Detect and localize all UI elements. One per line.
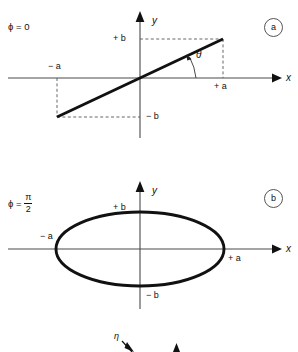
panel-a-graphics (8, 11, 282, 138)
panel-a-x-axis-arrowhead (272, 74, 282, 83)
panel-b-y-axis-arrowhead (136, 181, 145, 192)
panel-a-angle-label: θ (196, 50, 201, 60)
panel-a-y-axis-label: y (152, 16, 157, 26)
panel-a-y-axis-arrowhead (136, 11, 145, 22)
panel-c-vertical-arrowhead (173, 343, 180, 352)
panel-b-tag-text: b (271, 193, 276, 203)
panel-c-eta-arrowhead (125, 342, 135, 352)
panel-b-phase-numerator: π (24, 193, 32, 202)
panel-c-graphics (122, 341, 180, 352)
panel-a-phase-text: ϕ = 0 (8, 21, 29, 32)
panel-b-x-axis-arrowhead (272, 245, 282, 254)
panel-b-xtick-positive: + a (228, 254, 241, 263)
panel-c-eta-axis-label: η (114, 332, 119, 341)
panel-b-x-axis-label: x (286, 244, 291, 254)
panel-a-tag: a (264, 18, 283, 37)
panel-a-x-axis-label: x (286, 73, 291, 83)
panel-b-tag: b (264, 189, 283, 208)
panel-b-ytick-positive: + b (113, 203, 126, 212)
panel-b-phase-fraction: π 2 (24, 193, 32, 214)
panel-a-theta-arc (190, 57, 197, 78)
panel-b-phase-denominator: 2 (24, 205, 32, 214)
panel-a-ytick-negative: − b (146, 112, 159, 121)
panel-b-graphics (8, 181, 282, 309)
panel-a-tag-text: a (271, 22, 276, 32)
lissajous-figure: ϕ = 0 a y x + b − b − a + a θ ϕ = π 2 b … (0, 0, 298, 352)
panel-b-ytick-negative: − b (146, 291, 159, 300)
panel-a-phase-label: ϕ = 0 (8, 22, 29, 32)
panel-b-phase-label: ϕ = π 2 (8, 194, 32, 215)
panel-a-xtick-negative: − a (48, 62, 61, 71)
panel-a-ytick-positive: + b (113, 34, 126, 43)
panel-b-y-axis-label: y (152, 186, 157, 196)
panel-a-xtick-positive: + a (214, 82, 227, 91)
panel-b-phase-symbol: ϕ = (8, 198, 22, 209)
panel-b-xtick-negative: − a (40, 232, 53, 241)
